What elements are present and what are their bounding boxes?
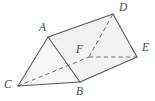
vertex-label-d: D [119, 2, 127, 14]
vertex-label-a: A [39, 22, 46, 34]
vertex-label-c: C [4, 79, 12, 91]
vertex-label-e: E [142, 42, 149, 54]
vertex-label-f: F [76, 44, 83, 56]
geometry-figure: A B C D E F [0, 0, 155, 101]
vertex-label-b: B [76, 86, 83, 98]
